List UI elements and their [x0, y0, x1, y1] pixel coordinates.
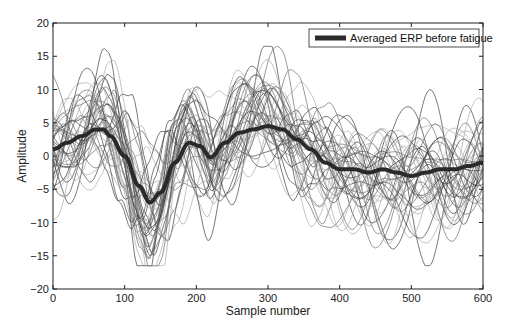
y-tick-label: −20 [30, 283, 49, 295]
legend: Averaged ERP before fatigue [309, 29, 493, 47]
legend-swatch [315, 36, 346, 41]
x-tick-label: 500 [402, 292, 420, 304]
y-tick-label: 0 [43, 150, 49, 162]
y-tick-label: 5 [43, 117, 49, 129]
x-tick-label: 0 [50, 292, 56, 304]
y-tick-label: 10 [37, 84, 49, 96]
y-tick-label: 15 [37, 50, 49, 62]
trial-line [53, 83, 483, 253]
x-tick-label: 200 [187, 292, 205, 304]
y-tick-label: −5 [36, 183, 49, 195]
x-tick-label: 300 [259, 292, 277, 304]
trial-lines [53, 46, 483, 265]
y-tick-label: −15 [30, 250, 49, 262]
erp-chart: 0100200300400500600 −20−15−10−505101520 … [0, 0, 508, 331]
x-tick-label: 600 [474, 292, 492, 304]
y-tick-label: −10 [30, 217, 49, 229]
legend-label: Averaged ERP before fatigue [350, 32, 493, 44]
x-tick-label: 100 [115, 292, 133, 304]
x-axis-label: Sample number [226, 304, 311, 318]
y-axis-label: Amplitude [15, 129, 29, 183]
y-tick-label: 20 [37, 17, 49, 29]
trial-line [53, 68, 483, 199]
x-tick-label: 400 [330, 292, 348, 304]
